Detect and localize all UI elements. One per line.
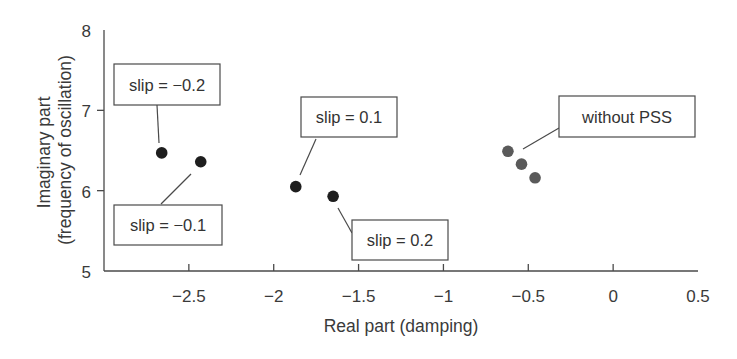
data-point (327, 190, 339, 202)
annotation-callout: slip = −0.2 (114, 64, 220, 143)
data-point (529, 172, 541, 184)
y-ticks: 5678 (82, 22, 104, 282)
annotation-callout: without PSS (523, 96, 695, 149)
x-tick-label: −1 (434, 287, 453, 306)
data-points (156, 146, 541, 203)
x-tick-label: −1.5 (342, 287, 376, 306)
annotation-label: slip = 0.1 (316, 108, 383, 126)
data-point (290, 181, 302, 193)
data-point (195, 156, 207, 168)
x-axis-title: Real part (damping) (324, 316, 479, 336)
leader-line (338, 208, 352, 233)
x-ticks: −2.5−2−1.5−1−0.500.5 (172, 264, 710, 306)
series-with-pss (156, 147, 339, 202)
x-tick-label: −2.5 (172, 287, 206, 306)
leader-line (523, 128, 559, 149)
y-tick-label: 8 (82, 22, 91, 41)
annotation-label: slip = −0.2 (129, 76, 205, 94)
data-point (516, 158, 528, 170)
series-without-pss (502, 146, 541, 184)
y-axis-title-line2: (frequency of oscillation) (55, 55, 75, 245)
leader-line (157, 105, 159, 143)
data-point (156, 147, 168, 159)
leader-line (300, 139, 316, 175)
y-axis-title-line1: Imaginary part (34, 96, 54, 208)
leader-line (161, 174, 191, 204)
annotation-label: slip = −0.1 (130, 216, 206, 234)
x-tick-label: 0.5 (686, 287, 710, 306)
y-axis-title: Imaginary part (frequency of oscillation… (34, 55, 75, 245)
y-tick-label: 7 (82, 102, 91, 121)
annotation-label: without PSS (581, 108, 672, 126)
x-tick-label: −0.5 (512, 287, 546, 306)
y-tick-label: 6 (82, 183, 91, 202)
annotation-callout: slip = 0.2 (338, 208, 448, 260)
annotation-callout: slip = −0.1 (114, 174, 222, 245)
x-tick-label: 0 (608, 287, 617, 306)
annotation-label: slip = 0.2 (367, 231, 434, 249)
data-point (502, 146, 514, 158)
y-tick-label: 5 (82, 263, 91, 282)
scatter-chart: 5678 −2.5−2−1.5−1−0.500.5 Real part (dam… (0, 0, 737, 359)
annotation-callout: slip = 0.1 (300, 97, 397, 175)
x-tick-label: −2 (264, 287, 283, 306)
